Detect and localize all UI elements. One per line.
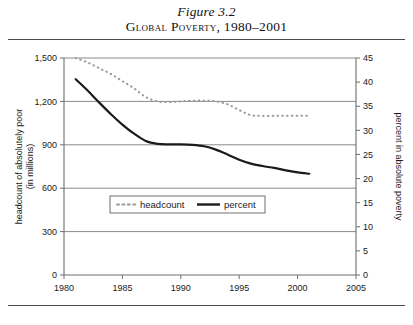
series-line-headcount xyxy=(76,58,310,116)
y-axis-left-tick-label: 1,500 xyxy=(34,53,57,63)
data-series-group xyxy=(76,58,310,174)
y-axis-right-title: percent in absolute poverty xyxy=(394,112,404,221)
x-axis-tick-label: 2005 xyxy=(346,283,366,293)
y-axis-right-tick-label: 25 xyxy=(363,150,373,160)
y-axis-left-tick-label: 900 xyxy=(42,140,57,150)
global-poverty-line-chart: 03006009001,2001,500 051015202530354045 … xyxy=(0,42,413,304)
series-line-percent xyxy=(76,79,310,174)
y-axis-right-tick-label: 35 xyxy=(363,101,373,111)
figure-container: Figure 3.2 Global Poverty, 1980–2001 030… xyxy=(0,0,413,325)
y-axis-right-ticks: 051015202530354045 xyxy=(356,53,373,280)
chart-legend: headcountpercent xyxy=(110,196,265,213)
y-axis-right-tick-label: 30 xyxy=(363,126,373,136)
y-axis-left-tick-label: 300 xyxy=(42,227,57,237)
footer-divider-wrap xyxy=(0,305,413,306)
x-axis-tick-label: 1980 xyxy=(54,283,74,293)
x-axis-tick-label: 1995 xyxy=(229,283,249,293)
x-axis-tick-label: 1990 xyxy=(171,283,191,293)
legend-label-percent: percent xyxy=(224,199,256,210)
y-axis-right-tick-label: 10 xyxy=(363,222,373,232)
y-axis-left-title: headcount of absolutely poor xyxy=(14,109,24,225)
y-axis-right-tick-label: 0 xyxy=(363,270,368,280)
y-axis-right-tick-label: 20 xyxy=(363,174,373,184)
title-divider-rule xyxy=(8,39,405,40)
figure-title-block: Figure 3.2 Global Poverty, 1980–2001 xyxy=(0,0,413,35)
y-axis-left-tick-label: 1,200 xyxy=(34,97,57,107)
y-axis-left-tick-label: 600 xyxy=(42,183,57,193)
y-axis-right-tick-label: 40 xyxy=(363,77,373,87)
axis-frame-group xyxy=(64,58,356,275)
y-axis-left-ticks: 03006009001,2001,500 xyxy=(34,53,64,280)
legend-label-headcount: headcount xyxy=(140,199,185,210)
y-axis-right-tick-label: 5 xyxy=(363,246,368,256)
page-title: Global Poverty, 1980–2001 xyxy=(0,19,413,35)
y-axis-left-title-line2: (in millions) xyxy=(25,144,35,190)
footer-divider-rule xyxy=(8,305,405,306)
x-axis-ticks: 198019851990199520002005 xyxy=(54,275,366,293)
x-axis-tick-label: 1985 xyxy=(112,283,132,293)
x-axis-tick-label: 2000 xyxy=(288,283,308,293)
figure-number: Figure 3.2 xyxy=(0,4,413,19)
y-axis-right-tick-label: 45 xyxy=(363,53,373,63)
y-axis-right-tick-label: 15 xyxy=(363,198,373,208)
chart-area: 03006009001,2001,500 051015202530354045 … xyxy=(0,42,413,304)
y-axis-left-tick-label: 0 xyxy=(52,270,57,280)
